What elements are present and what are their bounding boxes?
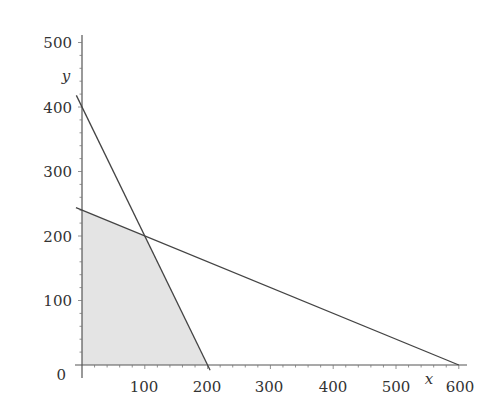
x-tick-400: 400	[319, 378, 348, 396]
y-tick-300: 300	[43, 163, 72, 181]
x-tick-500: 500	[382, 378, 411, 396]
y-tick-labels: 500 400 300 200 100 0	[43, 34, 72, 384]
y-tick-400: 400	[43, 99, 72, 117]
y-tick-100: 100	[43, 292, 72, 310]
y-tick-0: 0	[56, 366, 66, 384]
x-tick-600: 600	[446, 378, 475, 396]
y-tick-200: 200	[43, 228, 72, 246]
feasible-region	[82, 210, 208, 365]
x-tick-100: 100	[130, 378, 159, 396]
feasible-region-chart: 500 400 300 200 100 0 100 200 300 400 50…	[0, 0, 500, 413]
x-axis-label: x	[425, 370, 434, 388]
y-axis-label: y	[61, 67, 71, 85]
x-tick-300: 300	[255, 378, 284, 396]
y-tick-500: 500	[43, 34, 72, 52]
x-tick-labels: 100 200 300 400 500 600	[130, 378, 475, 396]
x-tick-200: 200	[193, 378, 222, 396]
